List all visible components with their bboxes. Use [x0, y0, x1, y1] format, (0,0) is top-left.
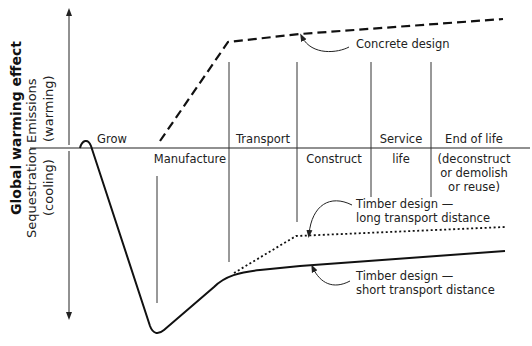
- concrete-leader: [302, 37, 349, 52]
- y-axis-title: Global warming effect: [8, 41, 24, 215]
- phase-construct: Construct: [306, 152, 362, 166]
- phase-end-4: or reuse): [448, 180, 500, 194]
- warming-label: (warming): [41, 75, 56, 142]
- phase-end-1: End of life: [445, 132, 503, 146]
- global-warming-diagram: Global warming effect Emissions (warming…: [0, 0, 532, 346]
- phase-service-2: life: [392, 152, 410, 166]
- sequestration-label: Sequestration: [24, 147, 39, 238]
- timber-long-label-2: long transport distance: [356, 211, 490, 225]
- phase-grow: Grow: [97, 132, 127, 146]
- timber-short-leader: [313, 268, 350, 285]
- timber-short-label-1: Timber design —: [355, 269, 453, 283]
- timber-short-label-2: short transport distance: [356, 283, 495, 297]
- phase-service-1: Service: [380, 132, 423, 146]
- cooling-label: (cooling): [41, 159, 56, 216]
- concrete-design-curve: [160, 19, 503, 141]
- emissions-label: Emissions: [24, 78, 39, 143]
- timber-long-leader: [309, 201, 352, 234]
- phase-end-2: (deconstruct: [438, 152, 511, 166]
- phase-manufacture: Manufacture: [154, 152, 226, 166]
- concrete-design-label: Concrete design: [356, 37, 450, 51]
- phase-end-3: or demolish: [440, 166, 508, 180]
- phase-transport: Transport: [235, 132, 290, 146]
- timber-long-label-1: Timber design —: [355, 197, 453, 211]
- timber-long-transport-curve: [234, 227, 505, 273]
